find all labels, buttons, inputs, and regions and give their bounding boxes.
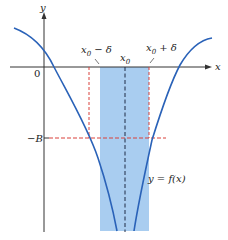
x0-minus-delta-leader	[95, 59, 99, 64]
y-axis-label: y	[39, 2, 46, 13]
y-axis-arrow-icon	[42, 12, 47, 19]
x-axis-label: x	[215, 61, 221, 72]
origin-label: 0	[34, 68, 40, 79]
x0-plus-delta-leader	[150, 58, 154, 63]
x0-minus-delta-label: x0 − δ	[81, 44, 112, 58]
limit-diagram: y x 0 x0 − δ x0 + δ x0 −B y = f(x)	[0, 0, 228, 240]
x0-label: x0	[120, 52, 131, 66]
neg-b-label: −B	[27, 133, 43, 144]
x0-plus-delta-label: x0 + δ	[146, 42, 177, 56]
curve-label: y = f(x)	[147, 173, 186, 184]
x-axis-arrow-icon	[205, 65, 212, 70]
